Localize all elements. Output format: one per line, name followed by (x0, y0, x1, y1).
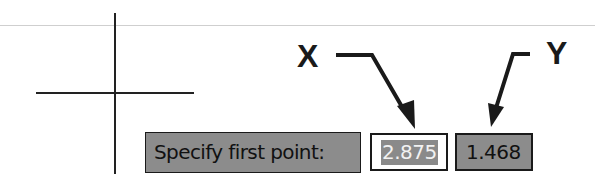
x-arrow-icon (336, 55, 415, 129)
annotation-arrows (0, 0, 595, 185)
y-arrow-icon (488, 54, 530, 127)
